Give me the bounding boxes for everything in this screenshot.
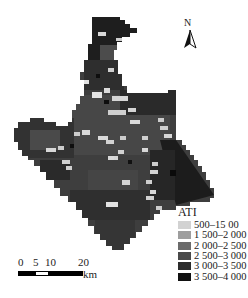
legend: ATI 500–15 00 1 500–2 000 2 000–2 500 2 … xyxy=(178,206,247,282)
legend-item: 3 500–4 000 xyxy=(178,271,247,281)
scale-segment xyxy=(18,271,35,276)
scale-unit: km xyxy=(83,268,97,280)
legend-item: 3 000–3 500 xyxy=(178,261,247,271)
scale-segment xyxy=(35,271,49,276)
map-figure: N ATI 500–15 00 1 500–2 000 2 000–2 500 … xyxy=(0,0,248,298)
legend-swatch xyxy=(178,242,191,250)
legend-label: 1 500–2 000 xyxy=(194,230,247,240)
scale-bar-graphic xyxy=(18,271,83,276)
north-arrow-label: N xyxy=(184,17,191,28)
scale-tick: 0 xyxy=(18,256,24,268)
legend-swatch xyxy=(178,221,191,229)
legend-label: 3 500–4 000 xyxy=(194,272,247,282)
scale-tick: 10 xyxy=(45,256,56,268)
scale-segment xyxy=(49,271,83,276)
scale-tick: 5 xyxy=(33,256,39,268)
legend-label: 3 000–3 500 xyxy=(194,261,247,271)
scale-tick: 20 xyxy=(78,256,89,268)
legend-swatch xyxy=(178,252,191,260)
legend-title: ATI xyxy=(178,206,247,219)
north-arrow-icon xyxy=(182,30,198,60)
legend-swatch xyxy=(178,231,191,239)
legend-swatch xyxy=(178,273,191,281)
legend-swatch xyxy=(178,262,191,270)
